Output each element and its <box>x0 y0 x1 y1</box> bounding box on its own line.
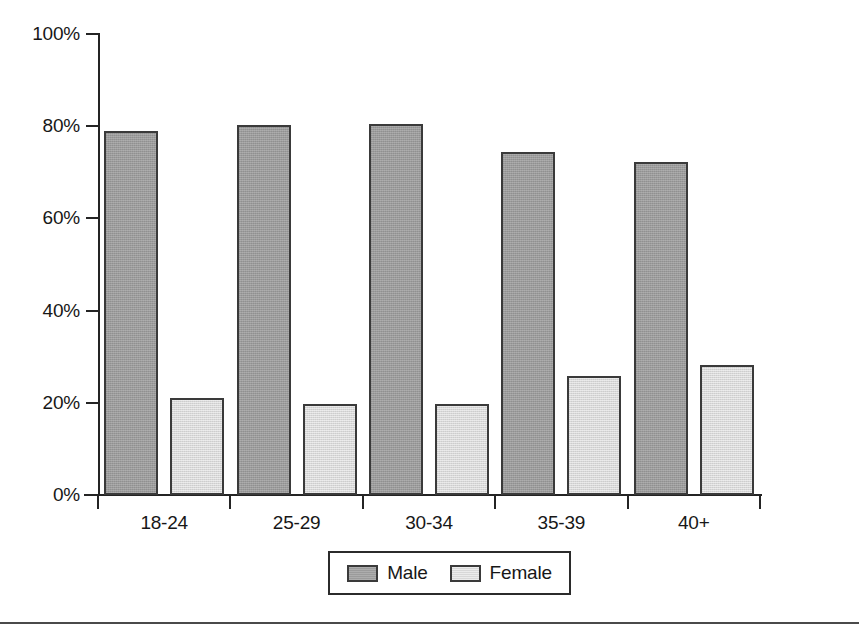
y-axis-tick-label: 20% <box>2 393 80 412</box>
y-axis-tick-label: 60% <box>2 208 80 227</box>
x-axis-category-label: 35-39 <box>495 512 627 534</box>
x-axis-tick <box>97 496 99 509</box>
y-axis-tick <box>86 33 98 35</box>
x-axis-category-label: 25-29 <box>230 512 362 534</box>
female-swatch-icon <box>450 565 481 582</box>
bottom-divider-rule <box>0 622 859 624</box>
legend-entry-male[interactable]: Male <box>347 563 427 583</box>
bar-female-30-34 <box>435 404 489 495</box>
bar-female-25-29 <box>303 404 357 495</box>
y-axis-tick-label: 80% <box>2 116 80 135</box>
chart-legend: MaleFemale <box>328 551 571 595</box>
x-axis-tick <box>229 496 231 509</box>
y-axis-tick <box>86 402 98 404</box>
y-axis-tick-label: 40% <box>2 301 80 320</box>
y-axis-tick <box>86 310 98 312</box>
x-axis-tick <box>362 496 364 509</box>
bar-female-18-24 <box>170 398 224 495</box>
legend-label: Male <box>387 563 427 583</box>
x-axis-tick <box>759 496 761 509</box>
y-axis-tick <box>86 217 98 219</box>
legend-entry-female[interactable]: Female <box>450 563 552 583</box>
y-axis-tick-label: 100% <box>2 24 80 43</box>
plot-area <box>98 34 760 495</box>
x-axis-category-label: 40+ <box>628 512 760 534</box>
chart-figure: 0%20%40%60%80%100% 18-2425-2930-3435-394… <box>0 0 859 633</box>
bar-male-30-34 <box>369 124 423 495</box>
x-axis-tick <box>494 496 496 509</box>
male-swatch-icon <box>347 565 378 582</box>
bar-male-18-24 <box>104 131 158 495</box>
y-axis-tick-label: 0% <box>2 485 80 504</box>
bar-male-35-39 <box>501 152 555 495</box>
bar-male-25-29 <box>237 125 291 495</box>
legend-label: Female <box>490 563 552 583</box>
bar-male-40+ <box>634 162 688 495</box>
x-axis-category-label: 30-34 <box>363 512 495 534</box>
bar-female-35-39 <box>567 376 621 495</box>
x-axis-category-label: 18-24 <box>98 512 230 534</box>
y-axis-tick <box>86 125 98 127</box>
x-axis-tick <box>627 496 629 509</box>
bar-female-40+ <box>700 365 754 495</box>
